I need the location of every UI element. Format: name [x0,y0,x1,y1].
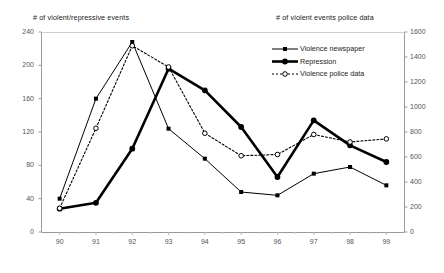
right-axis-tick-label: 200 [410,203,434,210]
x-axis-tick-label: 98 [340,238,360,245]
x-axis-tick-label: 90 [50,238,70,245]
legend-marker-1 [283,47,287,51]
left-axis-tick-label: 160 [12,95,34,102]
x-axis-tick-label: 93 [159,238,179,245]
left-axis-title: # of violent/repressive events [33,13,129,22]
right-axis-tick-label: 1000 [410,103,434,110]
right-axis-tick-label: 1600 [410,28,434,35]
legend-label-3[interactable]: Violence police data [300,69,364,78]
legend-marker-3 [283,72,288,77]
left-axis-tick-label: 200 [12,61,34,68]
right-axis-tick-label: 1400 [410,53,434,60]
right-axis-tick-label: 0 [410,228,434,235]
legend-symbols [272,47,298,76]
x-axis-tick-label: 92 [122,238,142,245]
left-axis-tick-label: 240 [12,28,34,35]
x-axis-tick-label: 95 [231,238,251,245]
legend-label-2[interactable]: Repression [300,57,336,66]
left-axis-tick-label: 120 [12,128,34,135]
x-axis-tick-label: 91 [86,238,106,245]
x-axis-tick-label: 97 [304,238,324,245]
left-axis-tick-label: 40 [12,195,34,202]
data-series-layer [57,40,390,212]
x-axis-tick-label: 96 [267,238,287,245]
series-repression [57,66,390,212]
right-axis-tick-label: 600 [410,153,434,160]
x-axis-tick-label: 94 [195,238,215,245]
legend-marker-2 [282,59,288,65]
right-axis-tick-label: 400 [410,178,434,185]
right-axis-title: # of violent events police data [276,13,374,22]
x-axis-tick-label: 99 [376,238,396,245]
left-axis-tick-label: 80 [12,161,34,168]
legend-label-1[interactable]: Violence newspaper [300,44,365,53]
right-axis-tick-label: 800 [410,128,434,135]
left-axis-tick-label: 0 [12,228,34,235]
chart-container: # of violent/repressive events # of viol… [0,0,444,273]
right-axis-tick-label: 1200 [410,78,434,85]
series-violence-newspaper [58,40,389,201]
plot-area [0,0,444,273]
